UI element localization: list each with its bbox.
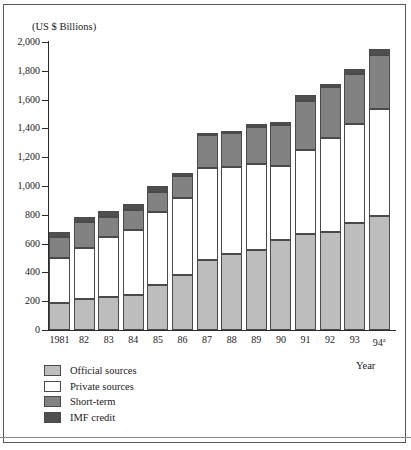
bar-segment-private-sources[interactable]: [221, 167, 242, 255]
chart-frame: (US $ Billions) 02004006008001,0001,2001…: [3, 4, 406, 443]
legend-label: Short-term: [70, 396, 116, 407]
bar-segment-short-term[interactable]: [246, 127, 267, 164]
bar-88[interactable]: [221, 131, 242, 330]
bar-segment-official-sources[interactable]: [369, 216, 390, 330]
bar-94[interactable]: [369, 49, 390, 330]
bar-segment-official-sources[interactable]: [74, 299, 95, 330]
legend-item-imf-credit[interactable]: IMF credit: [44, 410, 137, 426]
y-axis-tick-label: 1,000: [6, 181, 40, 191]
bar-84[interactable]: [123, 204, 144, 330]
x-axis-line: [48, 330, 396, 331]
bar-segment-short-term[interactable]: [98, 217, 119, 237]
bar-segment-official-sources[interactable]: [320, 232, 341, 330]
bar-segment-short-term[interactable]: [270, 125, 291, 167]
bar-87[interactable]: [197, 133, 218, 330]
legend-swatch-icon: [44, 365, 61, 376]
bar-segment-official-sources[interactable]: [172, 275, 193, 330]
bar-segment-imf-credit[interactable]: [74, 217, 95, 222]
bar-segment-short-term[interactable]: [320, 87, 341, 138]
bar-83[interactable]: [98, 211, 119, 330]
y-axis-tick-label: 400: [6, 267, 40, 277]
bar-segment-private-sources[interactable]: [49, 258, 70, 303]
bar-82[interactable]: [74, 217, 95, 330]
bar-89[interactable]: [246, 124, 267, 330]
chart-axis-unit-title: (US $ Billions): [32, 21, 96, 32]
bar-segment-short-term[interactable]: [49, 237, 70, 258]
bar-segment-imf-credit[interactable]: [172, 173, 193, 176]
bar-86[interactable]: [172, 173, 193, 330]
page-bottom-rule: [0, 437, 411, 438]
bar-segment-imf-credit[interactable]: [295, 95, 316, 101]
bar-segment-official-sources[interactable]: [246, 250, 267, 330]
bar-segment-private-sources[interactable]: [369, 109, 390, 216]
y-axis-tick-label: 1,600: [6, 95, 40, 105]
plot-area: [49, 42, 394, 330]
bar-segment-private-sources[interactable]: [98, 237, 119, 297]
bar-91[interactable]: [295, 95, 316, 330]
bar-segment-official-sources[interactable]: [123, 295, 144, 330]
bar-segment-short-term[interactable]: [221, 133, 242, 166]
bar-segment-imf-credit[interactable]: [344, 69, 365, 75]
bar-segment-imf-credit[interactable]: [49, 232, 70, 237]
x-axis-title: Year: [356, 360, 375, 371]
bar-segment-short-term[interactable]: [369, 55, 390, 109]
bar-85[interactable]: [147, 186, 168, 330]
bar-segment-imf-credit[interactable]: [123, 204, 144, 210]
bar-segment-imf-credit[interactable]: [147, 186, 168, 192]
y-axis-tick-label: 800: [6, 210, 40, 220]
chart-legend: Official sourcesPrivate sourcesShort-ter…: [44, 363, 137, 425]
legend-item-official-sources[interactable]: Official sources: [44, 363, 137, 379]
bar-segment-private-sources[interactable]: [197, 168, 218, 260]
bar-segment-private-sources[interactable]: [295, 150, 316, 233]
bar-segment-private-sources[interactable]: [147, 212, 168, 285]
bar-segment-private-sources[interactable]: [246, 164, 267, 250]
bar-segment-official-sources[interactable]: [270, 240, 291, 330]
y-axis-tick-label: 200: [6, 296, 40, 306]
bar-segment-private-sources[interactable]: [270, 166, 291, 240]
y-axis-tick-label: 1,200: [6, 152, 40, 162]
bar-segment-imf-credit[interactable]: [98, 211, 119, 217]
y-axis-tick-label: 0: [6, 325, 40, 335]
bar-segment-short-term[interactable]: [172, 176, 193, 198]
x-axis-tick-label: 94a: [360, 334, 399, 349]
y-axis-labels: 02004006008001,0001,2001,4001,6001,8002,…: [4, 5, 40, 450]
y-axis-tick-label: 2,000: [6, 37, 40, 47]
bar-segment-private-sources[interactable]: [344, 124, 365, 223]
bar-93[interactable]: [344, 69, 365, 330]
bar-segment-short-term[interactable]: [123, 210, 144, 230]
legend-item-private-sources[interactable]: Private sources: [44, 379, 137, 395]
bar-segment-private-sources[interactable]: [320, 138, 341, 231]
bar-segment-official-sources[interactable]: [197, 260, 218, 330]
bar-segment-imf-credit[interactable]: [320, 84, 341, 87]
bar-segment-official-sources[interactable]: [98, 297, 119, 330]
bar-segment-short-term[interactable]: [295, 101, 316, 150]
legend-swatch-icon: [44, 396, 61, 407]
bar-segment-imf-credit[interactable]: [369, 49, 390, 55]
bar-segment-short-term[interactable]: [74, 222, 95, 248]
bar-1981[interactable]: [49, 232, 70, 330]
bar-segment-official-sources[interactable]: [221, 254, 242, 330]
bar-segment-private-sources[interactable]: [74, 248, 95, 300]
bar-segment-imf-credit[interactable]: [221, 131, 242, 133]
legend-swatch-icon: [44, 381, 61, 392]
bar-segment-official-sources[interactable]: [147, 285, 168, 330]
bar-segment-imf-credit[interactable]: [197, 133, 218, 136]
bar-segment-private-sources[interactable]: [123, 230, 144, 295]
y-axis-tick-label: 600: [6, 239, 40, 249]
bar-segment-short-term[interactable]: [344, 74, 365, 124]
bar-segment-imf-credit[interactable]: [246, 124, 267, 127]
bar-segment-imf-credit[interactable]: [270, 122, 291, 125]
bar-segment-official-sources[interactable]: [49, 303, 70, 330]
legend-item-short-term[interactable]: Short-term: [44, 394, 137, 410]
y-axis-tick-label: 1,400: [6, 123, 40, 133]
bar-90[interactable]: [270, 122, 291, 330]
bar-segment-short-term[interactable]: [147, 192, 168, 212]
legend-label: Private sources: [70, 381, 134, 392]
bar-segment-official-sources[interactable]: [344, 223, 365, 330]
bar-segment-short-term[interactable]: [197, 135, 218, 167]
bar-segment-private-sources[interactable]: [172, 198, 193, 275]
legend-label: IMF credit: [70, 412, 115, 423]
footnote-marker: a: [383, 336, 386, 343]
bar-segment-official-sources[interactable]: [295, 234, 316, 330]
bar-92[interactable]: [320, 84, 341, 330]
